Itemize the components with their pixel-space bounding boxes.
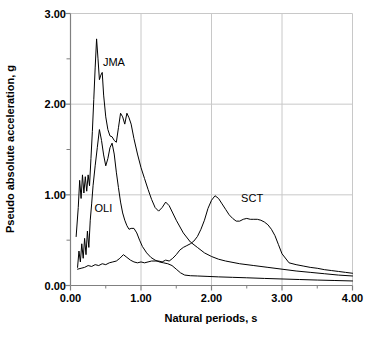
x-tick-label-group: 0.001.002.003.004.00 — [0, 292, 365, 308]
y-tick-label: 1.00 — [22, 189, 66, 201]
x-tick-label: 2.00 — [182, 292, 242, 304]
x-tick-label: 0.00 — [41, 292, 101, 304]
curve-sct — [78, 196, 353, 274]
y-axis-title: Pseudo absolute acceleration, g — [2, 13, 18, 285]
figure-container: Pseudo absolute acceleration, g 0.001.00… — [0, 0, 365, 342]
x-tick-label: 4.00 — [323, 292, 365, 304]
x-axis-title: Natural periods, s — [70, 312, 352, 324]
series-label-sct: SCT — [241, 192, 263, 204]
y-tick-label: 2.00 — [22, 98, 66, 110]
caption-fragment — [4, 332, 364, 342]
series-label-jma: JMA — [103, 56, 125, 68]
series-label-oli: OLI — [94, 202, 112, 214]
data-curves — [76, 39, 352, 281]
gridlines — [71, 14, 353, 286]
x-tick-label: 3.00 — [252, 292, 312, 304]
curve-jma — [76, 39, 352, 276]
y-tick-label: 3.00 — [22, 8, 66, 20]
y-tick-label-group: 0.001.002.003.00 — [18, 0, 66, 342]
y-tick-label: 0.00 — [22, 280, 66, 292]
x-tick-label: 1.00 — [111, 292, 171, 304]
